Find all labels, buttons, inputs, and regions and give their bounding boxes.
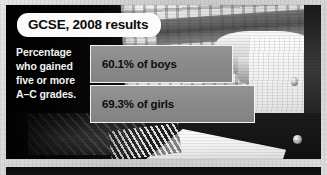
bar-chart-plot-area: 60.1% of boys 69.3% of girls [90,45,320,125]
caption-line: A–C grades. [16,87,90,101]
caption-line: who gained [16,59,90,73]
photo-garment-button [293,135,302,144]
next-panel-top-edge [6,167,321,175]
bar-girls: 69.3% of girls [90,85,255,123]
infographic-panel: GCSE, 2008 results Percentage who gained… [6,5,321,159]
page-background: GCSE, 2008 results Percentage who gained… [0,0,327,175]
bar-label-girls: 69.3% of girls [91,98,174,110]
bar-row-girls: 69.3% of girls [90,85,320,125]
chart-title: GCSE, 2008 results [17,13,161,37]
bar-label-boys: 60.1% of boys [91,58,177,70]
caption-line: Percentage [16,45,90,59]
bar-row-boys: 60.1% of boys [90,45,320,85]
bar-boys: 60.1% of boys [90,45,233,83]
chart-caption: Percentage who gained five or more A–C g… [16,45,90,101]
caption-line: five or more [16,73,90,87]
